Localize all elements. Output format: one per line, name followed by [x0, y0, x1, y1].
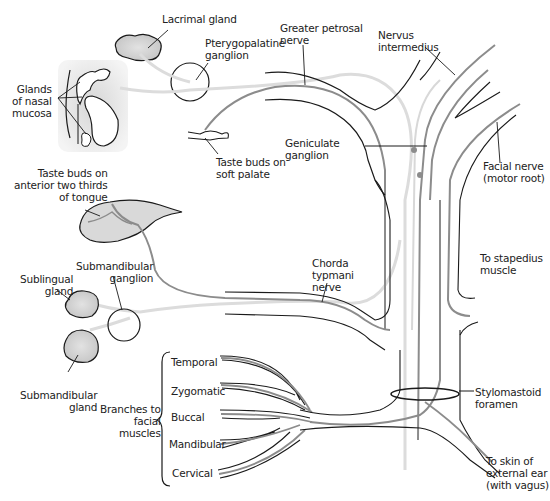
label-nervus-intermedius: Nervus intermedius: [378, 29, 438, 53]
label-geniculate-ganglion: Geniculate ganglion: [285, 137, 340, 161]
label-facial-nerve-motor-root: Facial nerve (motor root): [483, 160, 545, 184]
label-branches-to-facial-muscles: Branches to facial muscles: [100, 403, 161, 439]
label-lacrimal-gland: Lacrimal gland: [162, 13, 237, 25]
label-branch-buccal: Buccal: [171, 411, 205, 423]
facial-muscle-branches: [218, 200, 495, 478]
geniculate-ganglion: [365, 146, 427, 178]
soft-palate-shape: [188, 131, 228, 140]
label-branch-temporal: Temporal: [171, 356, 217, 368]
label-stylomastoid-foramen: Stylomastoid foramen: [475, 386, 541, 410]
stylomastoid-foramen-ring: [391, 388, 459, 400]
lacrimal-gland-shape: [115, 34, 161, 60]
label-to-skin-external-ear: To skin of external ear (with vagus): [486, 455, 549, 491]
label-sublingual-gland: Sublingual gland: [20, 273, 73, 297]
facial-nerve-diagram: [0, 0, 550, 501]
label-submandibular-gland: Submandibular gland: [20, 389, 97, 413]
label-pterygopalatine-ganglion: Pterygopalatine ganglion: [205, 37, 285, 61]
label-chorda-tympani-nerve: Chorda typmani nerve: [312, 257, 354, 293]
label-branch-cervical: Cervical: [172, 467, 213, 479]
label-taste-buds-soft-palate: Taste buds on soft palate: [216, 156, 286, 180]
label-submandibular-ganglion: Submandibular ganglion: [76, 260, 153, 284]
submandibular-gland-shape: [64, 330, 98, 362]
label-branch-zygomatic: Zygomatic: [171, 385, 225, 397]
label-greater-petrosal-nerve: Greater petrosal nerve: [280, 22, 363, 46]
nasal-mucosa-illustration: [58, 60, 128, 152]
label-to-stapedius-muscle: To stapedius muscle: [480, 252, 543, 276]
label-glands-nasal-mucosa: Glands of nasal mucosa: [12, 83, 52, 119]
label-taste-buds-tongue: Taste buds on anterior two thirds of ton…: [14, 167, 108, 203]
tongue-shape: [80, 200, 182, 242]
label-branch-mandibular: Mandibular: [169, 438, 226, 450]
